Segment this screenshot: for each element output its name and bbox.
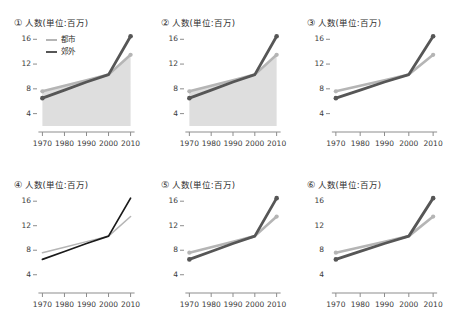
x-axis-tick-label: 1970 (323, 300, 349, 309)
data-point-suburb (274, 34, 279, 39)
data-point-city (275, 53, 279, 57)
data-point-city (334, 89, 338, 93)
chart-panel-5: ⑤人数(単位:百万)48121619701980199020002010 (147, 162, 293, 323)
chart-panel-4: ④人数(単位:百万)48121619701980199020002010 (0, 162, 147, 323)
plot-area (293, 162, 450, 323)
legend-swatch-suburb-icon (46, 51, 57, 53)
y-axis-tick-label: 8 (153, 84, 178, 93)
legend-label-suburb: 郊外 (61, 46, 75, 58)
legend-label-city: 都市 (61, 34, 75, 46)
data-point-city (334, 251, 338, 255)
y-axis-tick-label: 16 (153, 196, 178, 205)
y-axis-tick-label: 4 (6, 270, 31, 279)
y-axis-tick-label: 4 (153, 109, 178, 118)
y-axis-tick-label: 8 (299, 84, 324, 93)
x-axis-tick-label: 2010 (118, 139, 144, 148)
data-point-suburb (334, 257, 339, 262)
x-axis-tick-label: 1990 (372, 139, 398, 148)
x-axis-tick-label: 2010 (420, 300, 446, 309)
plot-area (147, 0, 293, 162)
x-axis-tick-label: 2010 (264, 139, 290, 148)
y-axis-tick-label: 12 (299, 221, 324, 230)
y-axis-tick-label: 16 (153, 34, 178, 43)
x-axis-tick-label: 2000 (396, 300, 422, 309)
data-point-suburb (274, 196, 279, 201)
chart-panel-1: ①人数(単位:百万)48121619701980199020002010都市郊外 (0, 0, 147, 162)
x-axis-tick-label: 1980 (347, 300, 373, 309)
data-point-city (431, 214, 435, 218)
y-axis-tick-label: 8 (153, 245, 178, 254)
plot-area (147, 162, 293, 323)
y-axis-tick-label: 12 (6, 221, 31, 230)
data-point-city (187, 251, 191, 255)
data-point-city (187, 89, 191, 93)
y-axis-tick-label: 4 (6, 109, 31, 118)
y-axis-tick-label: 4 (153, 270, 178, 279)
chart-legend: 都市郊外 (46, 34, 75, 58)
legend-item-city: 都市 (46, 34, 75, 46)
data-point-suburb (334, 96, 339, 101)
y-axis-tick-label: 16 (299, 196, 324, 205)
y-axis-tick-label: 8 (6, 84, 31, 93)
y-axis-tick-label: 12 (299, 59, 324, 68)
y-axis-tick-label: 12 (153, 221, 178, 230)
data-point-suburb (431, 34, 436, 39)
data-point-suburb (40, 96, 45, 101)
data-point-suburb (187, 257, 192, 262)
x-axis-tick-label: 1990 (372, 300, 398, 309)
data-point-suburb (187, 96, 192, 101)
chart-panel-6: ⑥人数(単位:百万)48121619701980199020002010 (293, 162, 450, 323)
y-axis-tick-label: 4 (299, 270, 324, 279)
chart-grid: ①人数(単位:百万)48121619701980199020002010都市郊外… (0, 0, 450, 323)
data-point-city (128, 53, 132, 57)
data-point-city (275, 214, 279, 218)
legend-swatch-city-icon (46, 39, 57, 41)
y-axis-tick-label: 8 (6, 245, 31, 254)
y-axis-tick-label: 12 (153, 59, 178, 68)
x-axis-tick-label: 1980 (347, 139, 373, 148)
x-axis-tick-label: 2010 (264, 300, 290, 309)
legend-item-suburb: 郊外 (46, 46, 75, 58)
y-axis-tick-label: 16 (299, 34, 324, 43)
y-axis-tick-label: 16 (6, 196, 31, 205)
x-axis-tick-label: 2010 (118, 300, 144, 309)
x-axis-tick-label: 1970 (323, 139, 349, 148)
data-point-suburb (128, 34, 133, 39)
y-axis-tick-label: 4 (299, 109, 324, 118)
y-axis-tick-label: 16 (6, 34, 31, 43)
plot-area (293, 0, 450, 162)
data-point-city (40, 89, 44, 93)
chart-panel-3: ③人数(単位:百万)48121619701980199020002010 (293, 0, 450, 162)
plot-area (0, 162, 147, 323)
y-axis-tick-label: 8 (299, 245, 324, 254)
chart-panel-2: ②人数(単位:百万)48121619701980199020002010 (147, 0, 293, 162)
y-axis-tick-label: 12 (6, 59, 31, 68)
data-point-city (431, 53, 435, 57)
plot-area (0, 0, 147, 162)
x-axis-tick-label: 2000 (396, 139, 422, 148)
x-axis-tick-label: 2010 (420, 139, 446, 148)
data-point-suburb (431, 196, 436, 201)
